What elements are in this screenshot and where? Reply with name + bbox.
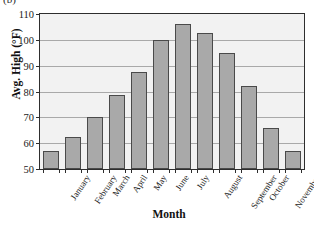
y-tick-label: 110: [19, 9, 34, 20]
plot-inner: 5060708090100110: [40, 14, 304, 169]
y-tick-mark: [36, 40, 40, 41]
bar-march: [87, 117, 102, 169]
x-tick-mark: [241, 169, 242, 173]
x-tick-mark: [131, 169, 132, 173]
bar-november: [263, 128, 278, 169]
gridline: [40, 66, 304, 67]
bar-april: [109, 95, 124, 169]
y-tick-mark: [36, 14, 40, 15]
x-tick-mark: [257, 169, 258, 173]
x-tick-label-july: July: [195, 173, 212, 191]
x-tick-mark: [59, 169, 60, 173]
y-tick-mark: [36, 169, 40, 170]
x-tick-label-november: November: [293, 173, 314, 210]
x-axis-title: Month: [0, 208, 314, 220]
x-tick-mark: [153, 169, 154, 173]
x-tick-label-may: May: [151, 173, 169, 192]
x-tick-mark: [169, 169, 170, 173]
bar-december: [285, 151, 300, 169]
bar-october: [241, 86, 256, 169]
y-tick-label: 90: [24, 60, 35, 71]
y-tick-label: 80: [24, 86, 35, 97]
bar-june: [153, 40, 168, 169]
y-tick-label: 100: [18, 34, 34, 45]
y-axis-title: Avg. High (°F): [10, 4, 22, 124]
x-tick-mark: [219, 169, 220, 173]
x-tick-mark: [301, 169, 302, 173]
x-tick-mark: [65, 169, 66, 173]
x-tick-mark: [81, 169, 82, 173]
bar-august: [197, 33, 212, 169]
y-tick-mark: [36, 66, 40, 67]
x-tick-mark: [279, 169, 280, 173]
x-tick-mark: [147, 169, 148, 173]
x-tick-label-april: April: [130, 173, 149, 194]
gridline: [40, 40, 304, 41]
y-tick-mark: [36, 92, 40, 93]
y-tick-mark: [36, 143, 40, 144]
y-tick-label: 50: [24, 164, 35, 175]
x-tick-mark: [191, 169, 192, 173]
bar-may: [131, 72, 146, 169]
bar-january: [43, 151, 58, 169]
gridline: [40, 92, 304, 93]
x-tick-label-january: January: [68, 173, 92, 202]
x-tick-mark: [213, 169, 214, 173]
x-tick-mark: [197, 169, 198, 173]
x-tick-label-august: August: [221, 173, 244, 200]
bar-july: [175, 24, 190, 169]
gridline: [40, 117, 304, 118]
x-tick-mark: [103, 169, 104, 173]
x-tick-mark: [285, 169, 286, 173]
y-tick-label: 70: [24, 112, 35, 123]
x-tick-mark: [263, 169, 264, 173]
x-tick-label-june: June: [173, 173, 191, 192]
y-tick-mark: [36, 117, 40, 118]
figure-container: (b) Avg. High (°F) 5060708090100110 Janu…: [0, 0, 314, 229]
x-tick-mark: [43, 169, 44, 173]
x-tick-mark: [175, 169, 176, 173]
bar-september: [219, 53, 234, 169]
bar-february: [65, 137, 80, 169]
y-tick-label: 60: [24, 138, 35, 149]
plot-area: 5060708090100110: [39, 13, 305, 170]
x-tick-mark: [87, 169, 88, 173]
